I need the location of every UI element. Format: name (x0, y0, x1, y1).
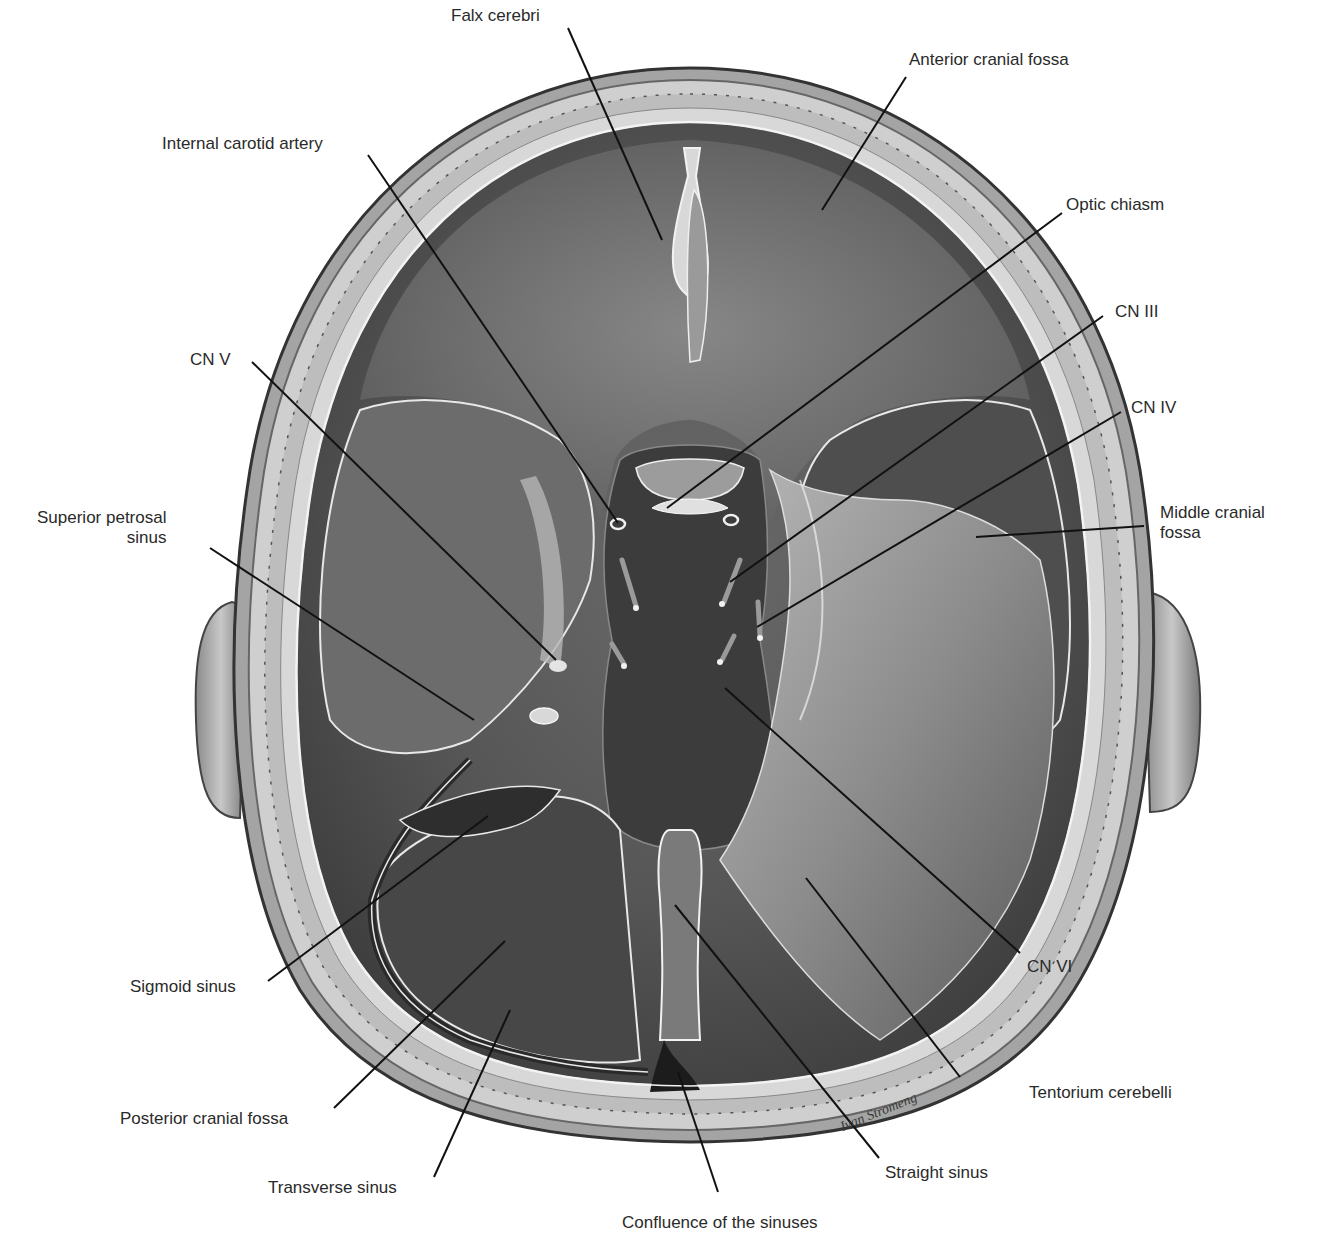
label-text: Internal carotid artery (162, 134, 323, 154)
label-sigmoid-sinus: Sigmoid sinus (130, 977, 236, 997)
label-optic-chiasm: Optic chiasm (1066, 195, 1164, 215)
label-cn-iii: CN III (1115, 302, 1158, 322)
label-text: CN VI (1027, 957, 1072, 977)
label-text: CN V (190, 350, 231, 370)
label-text: Optic chiasm (1066, 195, 1164, 215)
label-middle-cranial-fossa: Middle cranialfossa (1160, 503, 1265, 543)
label-text: Middle cranial (1160, 503, 1265, 523)
label-tentorium-cerebelli: Tentorium cerebelli (1029, 1083, 1172, 1103)
label-text: Anterior cranial fossa (909, 50, 1069, 70)
label-text: CN III (1115, 302, 1158, 322)
label-cn-vi: CN VI (1027, 957, 1072, 977)
label-text: sinus (37, 528, 166, 548)
label-text: Sigmoid sinus (130, 977, 236, 997)
anatomy-figure: Ivan Stromeng Falx cerebriAnterior crani… (0, 0, 1319, 1249)
label-text: CN IV (1131, 398, 1176, 418)
skull-illustration (0, 0, 1319, 1249)
label-falx-cerebri: Falx cerebri (451, 6, 540, 26)
label-text: fossa (1160, 523, 1265, 543)
label-internal-carotid-artery: Internal carotid artery (162, 134, 323, 154)
label-text: Tentorium cerebelli (1029, 1083, 1172, 1103)
label-text: Confluence of the sinuses (622, 1213, 818, 1233)
label-transverse-sinus: Transverse sinus (268, 1178, 397, 1198)
label-text: Straight sinus (885, 1163, 988, 1183)
label-posterior-cranial-fossa: Posterior cranial fossa (120, 1109, 288, 1129)
label-text: Transverse sinus (268, 1178, 397, 1198)
label-text: Falx cerebri (451, 6, 540, 26)
label-text: Superior petrosal (37, 508, 166, 528)
label-superior-petrosal-sinus: Superior petrosalsinus (37, 508, 166, 548)
label-cn-v: CN V (190, 350, 231, 370)
label-text: Posterior cranial fossa (120, 1109, 288, 1129)
label-confluence-of-the-sinuses: Confluence of the sinuses (622, 1213, 818, 1233)
sella-and-clivus (603, 445, 774, 850)
label-cn-iv: CN IV (1131, 398, 1176, 418)
label-anterior-cranial-fossa: Anterior cranial fossa (909, 50, 1069, 70)
label-straight-sinus: Straight sinus (885, 1163, 988, 1183)
